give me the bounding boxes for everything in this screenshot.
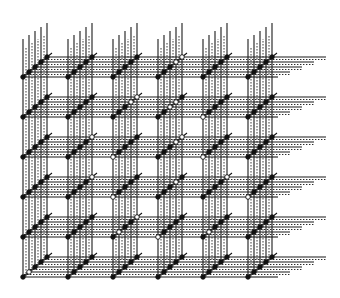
filled-node-icon [72, 270, 77, 275]
filled-node-icon [264, 60, 269, 65]
filled-node-icon [168, 225, 173, 230]
filled-node-icon [156, 195, 161, 200]
filled-node-icon [123, 65, 128, 70]
filled-node-icon [117, 270, 122, 275]
open-node-icon [129, 100, 134, 105]
open-node-icon [207, 230, 212, 235]
filled-node-icon [129, 260, 134, 265]
filled-node-icon [84, 140, 89, 145]
filled-node-icon [258, 265, 263, 270]
filled-node-icon [33, 185, 38, 190]
filled-node-icon [21, 275, 26, 280]
filled-node-icon [258, 185, 263, 190]
filled-node-icon [162, 230, 167, 235]
filled-node-icon [213, 265, 218, 270]
filled-node-icon [135, 255, 140, 260]
filled-node-icon [180, 215, 185, 220]
filled-node-icon [264, 220, 269, 225]
filled-node-icon [39, 260, 44, 265]
open-node-icon [90, 135, 95, 140]
filled-node-icon [252, 230, 257, 235]
filled-node-icon [207, 150, 212, 155]
filled-node-icon [270, 255, 275, 260]
filled-node-icon [117, 70, 122, 75]
filled-node-icon [213, 65, 218, 70]
filled-node-icon [45, 255, 50, 260]
filled-node-icon [39, 180, 44, 185]
open-node-icon [174, 100, 179, 105]
filled-node-icon [117, 110, 122, 115]
filled-node-icon [162, 70, 167, 75]
filled-node-icon [33, 65, 38, 70]
filled-node-icon [45, 215, 50, 220]
filled-node-icon [162, 270, 167, 275]
filled-node-icon [129, 60, 134, 65]
filled-node-icon [180, 255, 185, 260]
filled-node-icon [84, 60, 89, 65]
open-node-icon [135, 215, 140, 220]
filled-node-icon [117, 190, 122, 195]
filled-node-icon [72, 70, 77, 75]
open-node-icon [174, 60, 179, 65]
filled-node-icon [123, 105, 128, 110]
filled-node-icon [90, 215, 95, 220]
filled-node-icon [135, 175, 140, 180]
filled-node-icon [219, 60, 224, 65]
open-node-icon [180, 135, 185, 140]
filled-node-icon [201, 75, 206, 80]
filled-node-icon [129, 180, 134, 185]
filled-node-icon [33, 105, 38, 110]
filled-node-icon [225, 135, 230, 140]
filled-node-icon [162, 150, 167, 155]
filled-node-icon [27, 110, 32, 115]
open-node-icon [168, 105, 173, 110]
filled-node-icon [180, 175, 185, 180]
open-node-icon [180, 55, 185, 60]
filled-node-icon [270, 175, 275, 180]
filled-node-icon [129, 220, 134, 225]
filled-node-icon [156, 155, 161, 160]
filled-node-icon [174, 220, 179, 225]
open-node-icon [246, 195, 251, 200]
filled-node-icon [213, 105, 218, 110]
filled-node-icon [213, 145, 218, 150]
filled-node-icon [252, 70, 257, 75]
filled-node-icon [264, 100, 269, 105]
filled-node-icon [219, 260, 224, 265]
filled-node-icon [84, 220, 89, 225]
filled-node-icon [219, 140, 224, 145]
filled-node-icon [111, 115, 116, 120]
filled-node-icon [207, 190, 212, 195]
filled-node-icon [21, 195, 26, 200]
filled-node-icon [270, 215, 275, 220]
filled-node-icon [111, 235, 116, 240]
open-node-icon [201, 115, 206, 120]
filled-node-icon [72, 150, 77, 155]
filled-node-icon [39, 60, 44, 65]
filled-node-icon [213, 185, 218, 190]
open-node-icon [27, 270, 32, 275]
filled-node-icon [168, 185, 173, 190]
filled-node-icon [213, 225, 218, 230]
filled-node-icon [84, 180, 89, 185]
filled-node-icon [225, 95, 230, 100]
filled-node-icon [33, 225, 38, 230]
filled-node-icon [258, 65, 263, 70]
filled-node-icon [258, 225, 263, 230]
open-node-icon [111, 195, 116, 200]
filled-node-icon [21, 75, 26, 80]
filled-node-icon [201, 195, 206, 200]
lattice-nodes [21, 55, 275, 280]
filled-node-icon [78, 145, 83, 150]
filled-node-icon [270, 135, 275, 140]
filled-node-icon [27, 70, 32, 75]
filled-node-icon [45, 175, 50, 180]
filled-node-icon [39, 220, 44, 225]
filled-node-icon [84, 100, 89, 105]
filled-node-icon [135, 135, 140, 140]
filled-node-icon [219, 180, 224, 185]
filled-node-icon [66, 195, 71, 200]
filled-node-icon [246, 155, 251, 160]
filled-node-icon [162, 190, 167, 195]
filled-node-icon [219, 220, 224, 225]
